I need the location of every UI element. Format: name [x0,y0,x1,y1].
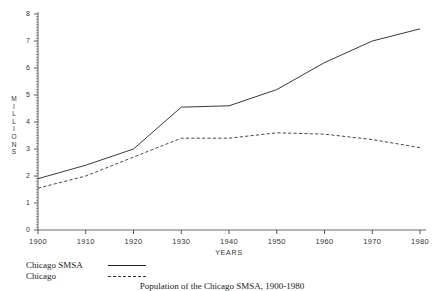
y-axis-title-letter: S [9,148,19,156]
x-tick-label: 1910 [69,237,103,246]
y-axis-title-letter: M [9,95,19,103]
x-tick-label: 1970 [355,237,389,246]
series-line-chicago-smsa [38,29,420,179]
x-tick-label: 1950 [260,237,294,246]
legend-item-chicago-smsa: Chicago SMSA [26,259,226,270]
legend-label: Chicago SMSA [26,260,104,270]
y-tick-label: 6 [16,64,30,71]
legend-swatch-solid-icon [104,261,148,269]
axes-group [34,12,426,234]
figure-caption: Population of the Chicago SMSA, 1900-198… [0,281,444,291]
y-tick-label: 2 [16,172,30,179]
x-tick-label: 1940 [212,237,246,246]
y-axis-title-letter: L [9,118,19,126]
y-axis-title-letter: N [9,141,19,149]
x-tick-label: 1960 [308,237,342,246]
x-tick-label: 1900 [21,237,55,246]
x-tick-label: 1930 [164,237,198,246]
legend-swatch-dashed-icon [104,272,148,280]
legend-item-chicago: Chicago [26,270,226,281]
legend-label: Chicago [26,271,104,281]
y-tick-label: 1 [16,199,30,206]
x-tick-label: 1920 [117,237,151,246]
y-tick-label: 7 [16,37,30,44]
y-tick-label: 8 [16,10,30,17]
y-axis-title-letter: I [9,125,19,133]
x-axis-title: YEARS [199,249,259,256]
series-line-chicago [38,133,420,188]
y-axis-title-letter: O [9,133,19,141]
y-axis-title-letter: I [9,103,19,111]
x-tick-label: 1980 [403,237,437,246]
y-axis-title-letter: L [9,110,19,118]
y-axis-title: MILLIONS [9,95,19,156]
series-group [38,29,420,188]
legend: Chicago SMSA Chicago [26,259,226,281]
y-tick-label: 0 [16,226,30,233]
